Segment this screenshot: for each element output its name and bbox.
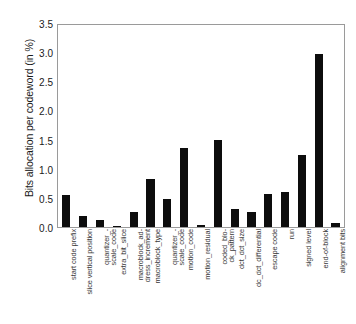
bar [180, 148, 188, 227]
bar [247, 212, 255, 227]
y-axis-tick-label: 3.0 [13, 48, 53, 59]
bar [163, 199, 171, 227]
bar [130, 212, 138, 227]
x-axis-tick-label: macroblock_ad-dress_increment [137, 229, 152, 282]
bar [96, 220, 104, 227]
x-axis-tick-label: run [288, 229, 296, 239]
bar-chart-figure: Bits allocation per codeword (in %) 0.00… [0, 0, 356, 324]
y-axis-tick-label: 1.5 [13, 135, 53, 146]
bar [146, 179, 154, 227]
y-axis-tick-label: 1.0 [13, 164, 53, 175]
x-axis-tick-label: alignment bits [339, 229, 347, 273]
bar-series [58, 25, 344, 227]
x-axis-tick-label: signed level [305, 229, 313, 267]
x-axis-tick-label: start code prefix [70, 229, 78, 280]
y-axis-tick-label: 0.0 [13, 223, 53, 234]
bar [298, 155, 306, 227]
bar [79, 216, 87, 227]
x-axis-tick-label: motion_residual [204, 229, 212, 280]
y-axis-tick-label: 2.5 [13, 77, 53, 88]
y-axis-tick-label: 2.0 [13, 106, 53, 117]
x-axis-tick-label: escape code [271, 229, 279, 270]
x-axis-tick-label: end-of-block [322, 229, 330, 268]
bar [214, 140, 222, 227]
x-axis-tick-label: coded_blo-ck_pattern [221, 229, 236, 265]
x-axis-tick-label: macroblock_type [154, 229, 162, 283]
bar [231, 209, 239, 227]
bar [197, 225, 205, 227]
bar [315, 54, 323, 227]
bar [281, 192, 289, 227]
x-axis-tick-label: quantizer_-scale_code [171, 229, 186, 265]
y-axis-tick-label: 3.5 [13, 19, 53, 30]
x-axis-tick-label: dct_dct_size [238, 229, 246, 269]
x-axis-tick-label: quantizer_-scale_code [103, 229, 118, 265]
y-axis-tick-label: 0.5 [13, 193, 53, 204]
bar [264, 194, 272, 227]
x-axis-tick-label: dc_dct_differential [255, 229, 263, 287]
x-axis-tick-labels: start code prefixslice vertical position… [58, 229, 344, 324]
x-axis-tick-label: slice vertical position [86, 229, 94, 294]
x-axis-tick-label: extra_bit_slice [120, 229, 128, 275]
bar [62, 195, 70, 227]
x-axis-tick-label: motion_code [187, 229, 195, 270]
bar [331, 223, 339, 227]
bar [113, 226, 121, 227]
